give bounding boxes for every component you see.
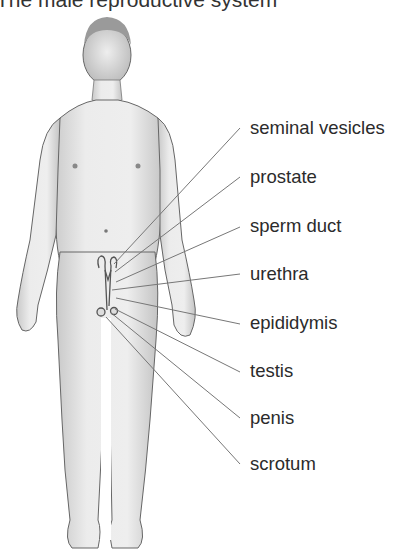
head (83, 17, 131, 104)
label-prostate: prostate (250, 167, 317, 187)
label-epididymis: epididymis (250, 313, 337, 333)
torso (52, 100, 165, 262)
label-urethra: urethra (250, 264, 309, 284)
label-scrotum: scrotum (250, 454, 316, 474)
label-sperm-duct: sperm duct (250, 216, 342, 236)
label-seminal-vesicles: seminal vesicles (250, 118, 385, 138)
label-penis: penis (250, 408, 294, 428)
left-arm (17, 118, 60, 331)
label-testis: testis (250, 361, 293, 381)
male-body-illustration (0, 0, 400, 557)
right-arm (158, 118, 195, 336)
